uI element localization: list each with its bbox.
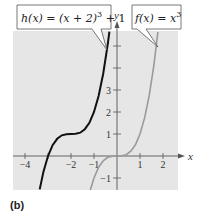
panel-label: (b) [10, 199, 24, 211]
x-axis-arrow-icon [178, 154, 185, 159]
x-tick-label: −4 [20, 159, 31, 170]
x-tick-label: 2 [161, 159, 166, 170]
h-callout-label: h(x) = (x + 2)3 + 1 [21, 10, 125, 25]
f-callout-label: f(x) = x3 [134, 10, 181, 25]
x-axis-label: x [187, 150, 193, 162]
y-tick-label: 1 [106, 129, 111, 140]
y-tick-label: 3 [106, 85, 111, 96]
graph-figure: −4−2−112 −1123 x y h(x) = (x + 2)3 + 1 f… [0, 0, 197, 211]
x-tick-label: 1 [138, 159, 143, 170]
y-tick-label: 2 [106, 107, 111, 118]
y-tick-label: −1 [100, 173, 111, 184]
x-tick-label: −2 [66, 159, 77, 170]
